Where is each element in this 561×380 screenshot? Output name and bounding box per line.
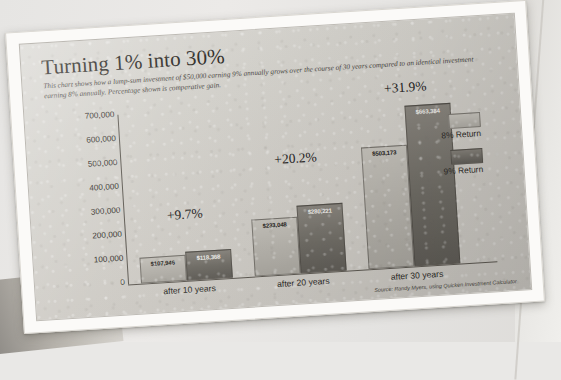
- category-label: after 30 years: [391, 269, 444, 282]
- bar-8pct-after-20-years[interactable]: $233,048: [251, 217, 300, 277]
- legend: 8% Return 9% Return: [434, 110, 514, 187]
- chart-panel: Turning 1% into 30% This chart shows how…: [19, 13, 532, 322]
- legend-label: 8% Return: [441, 128, 481, 140]
- y-tick: 500,000: [88, 158, 118, 169]
- bar-group-after-20-years: +20.2% $233,048 $280,221 after 20 years: [240, 101, 354, 277]
- plot-area: 700,000 600,000 500,000 400,000 300,000 …: [20, 14, 531, 321]
- legend-item-9pct[interactable]: 9% Return: [436, 146, 514, 187]
- gain-label: +20.2%: [274, 149, 317, 168]
- y-tick: 400,000: [89, 182, 119, 193]
- y-axis-labels: 700,000 600,000 500,000 400,000 300,000 …: [53, 115, 126, 291]
- gain-label: +31.9%: [384, 78, 427, 97]
- legend-swatch-icon: [448, 112, 481, 129]
- bar-8pct-after-10-years[interactable]: $107,946: [139, 255, 187, 284]
- newspaper-page: Turning 1% into 30% This chart shows how…: [5, 0, 545, 334]
- bar-value: $280,221: [298, 207, 342, 216]
- category-label: after 20 years: [277, 276, 330, 289]
- y-tick: 100,000: [94, 254, 124, 265]
- y-tick: 200,000: [92, 230, 122, 241]
- legend-label: 9% Return: [443, 164, 483, 176]
- category-label: after 10 years: [163, 283, 216, 296]
- bar-value: $118,368: [186, 253, 230, 262]
- bar-group-after-10-years: +9.7% $107,946 $118,368 after 10 years: [126, 108, 240, 284]
- bar-value: $503,173: [362, 149, 406, 158]
- bar-8pct-after-30-years[interactable]: $503,173: [361, 145, 415, 270]
- y-tick: 600,000: [86, 134, 116, 145]
- legend-swatch-icon: [450, 148, 483, 165]
- bar-9pct-after-10-years[interactable]: $118,368: [185, 249, 233, 281]
- y-tick: 700,000: [85, 110, 115, 121]
- bar-9pct-after-20-years[interactable]: $280,221: [296, 203, 346, 274]
- y-tick: 0: [120, 278, 125, 287]
- y-tick: 300,000: [91, 206, 121, 217]
- gain-label: +9.7%: [166, 206, 203, 224]
- legend-item-8pct[interactable]: 8% Return: [434, 110, 512, 151]
- bar-value: $107,946: [141, 259, 185, 268]
- bar-value: $233,048: [253, 221, 297, 230]
